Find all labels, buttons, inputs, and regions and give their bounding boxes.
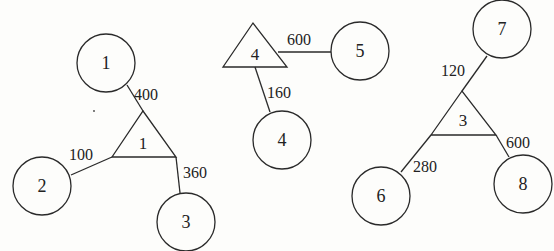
edge-c3-t1 — [176, 157, 180, 193]
stray-dot — [93, 110, 95, 112]
edge-weight-label: 400 — [134, 86, 158, 103]
network-diagram: 143 12354768 400100360600160120280600 — [0, 0, 554, 251]
triangle-node-label: 1 — [139, 134, 148, 153]
circle-node-label: 6 — [377, 186, 386, 206]
edge-weight-label: 160 — [267, 84, 291, 101]
circle-node-label: 3 — [182, 212, 191, 232]
triangle-node-label: 4 — [251, 45, 260, 64]
circle-node-label: 8 — [519, 174, 528, 194]
edge-weight-label: 600 — [506, 134, 530, 151]
edge-weight-label: 280 — [413, 158, 437, 175]
circle-node-label: 7 — [498, 19, 507, 39]
circle-node-label: 4 — [278, 130, 287, 150]
edge-c7-t3 — [462, 56, 487, 91]
triangle-node-label: 3 — [459, 111, 468, 130]
edge-weight-label: 100 — [69, 146, 93, 163]
circle-node-label: 1 — [102, 53, 111, 73]
circle-node-label: 2 — [38, 176, 47, 196]
weights-layer: 400100360600160120280600 — [69, 31, 530, 181]
circle-node-label: 5 — [356, 41, 365, 61]
circles-layer: 12354768 — [13, 0, 552, 251]
edge-weight-label: 600 — [287, 31, 311, 48]
edge-weight-label: 360 — [183, 164, 207, 181]
edge-weight-label: 120 — [441, 62, 465, 79]
